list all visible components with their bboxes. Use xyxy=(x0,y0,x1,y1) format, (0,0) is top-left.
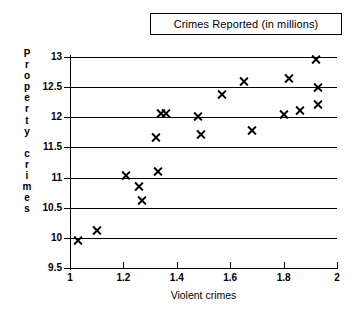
gridline xyxy=(70,57,337,58)
x-axis-tick xyxy=(70,262,71,269)
y-axis-title-letter: o xyxy=(20,70,34,81)
data-point-marker xyxy=(238,76,249,87)
y-axis-tick xyxy=(64,87,71,88)
y-axis-tick-label-wrap: 12 xyxy=(28,112,62,122)
y-axis-tick xyxy=(64,57,71,58)
scatter-chart-figure: Crimes Reported (in millions) Propertycr… xyxy=(0,0,358,312)
data-point-marker xyxy=(278,109,289,120)
x-axis-title: Violent crimes xyxy=(70,289,337,301)
data-point-marker xyxy=(150,132,161,143)
data-point-marker xyxy=(91,225,102,236)
y-axis-tick-label: 11 xyxy=(32,173,62,183)
gridline xyxy=(70,178,337,179)
y-axis-tick-label-wrap: 10.5 xyxy=(28,203,62,213)
x-axis-tick xyxy=(177,262,178,269)
y-axis-tick-label-wrap: 11.5 xyxy=(28,142,62,152)
x-axis-tick xyxy=(337,262,338,269)
gridline xyxy=(70,208,337,209)
gridline xyxy=(70,147,337,148)
y-axis-title-letter: r xyxy=(20,159,34,170)
data-point-marker xyxy=(195,129,206,140)
y-axis-tick-label: 12 xyxy=(32,112,62,122)
x-axis-tick-label: 1.2 xyxy=(106,272,140,283)
y-axis-tick-label: 13 xyxy=(32,52,62,62)
y-axis-tick-label: 10.5 xyxy=(32,203,62,213)
x-axis-tick-label: 2 xyxy=(320,272,354,283)
y-axis-tick xyxy=(64,208,71,209)
y-axis-tick-label-wrap: 12.5 xyxy=(28,82,62,92)
x-axis-tick-label: 1.6 xyxy=(213,272,247,283)
data-point-marker xyxy=(294,105,305,116)
x-axis-tick xyxy=(284,262,285,269)
data-point-marker xyxy=(153,166,164,177)
y-axis-tick-label-wrap: 13 xyxy=(28,52,62,62)
data-point-marker xyxy=(193,111,204,122)
y-axis-tick xyxy=(64,147,71,148)
y-axis-title-letter: e xyxy=(20,192,34,203)
data-point-marker xyxy=(73,235,84,246)
data-point-marker xyxy=(283,73,294,84)
data-point-marker xyxy=(313,99,324,110)
y-axis-title-letter: e xyxy=(20,92,34,103)
y-axis-tick-label: 11.5 xyxy=(32,142,62,152)
data-point-marker xyxy=(246,125,257,136)
x-axis-tick-label: 1 xyxy=(53,272,87,283)
data-point-marker xyxy=(121,170,132,181)
x-axis-tick xyxy=(230,262,231,269)
y-axis-tick-label: 12.5 xyxy=(32,82,62,92)
gridline xyxy=(70,238,337,239)
y-axis-tick-label-wrap: 11 xyxy=(28,173,62,183)
y-axis-title-letter: y xyxy=(20,126,34,137)
y-axis-tick-label: 10 xyxy=(32,233,62,243)
gridline xyxy=(70,87,337,88)
y-axis-title-letter: m xyxy=(20,181,34,192)
x-axis-tick xyxy=(123,262,124,269)
data-point-marker xyxy=(217,89,228,100)
x-axis-line xyxy=(69,268,338,269)
data-point-marker xyxy=(310,54,321,65)
data-point-marker xyxy=(137,195,148,206)
chart-title-box: Crimes Reported (in millions) xyxy=(150,13,342,35)
y-axis-tick xyxy=(64,238,71,239)
data-point-marker xyxy=(161,108,172,119)
x-axis-tick-label: 1.8 xyxy=(267,272,301,283)
y-axis-tick-label-wrap: 10 xyxy=(28,233,62,243)
y-axis-tick xyxy=(64,178,71,179)
chart-title: Crimes Reported (in millions) xyxy=(174,18,319,30)
y-axis-tick xyxy=(64,117,71,118)
data-point-marker xyxy=(134,181,145,192)
x-axis-tick-label: 1.4 xyxy=(160,272,194,283)
plot-area xyxy=(70,57,337,268)
data-point-marker xyxy=(313,82,324,93)
y-axis-title: Propertycrimes xyxy=(20,48,34,214)
